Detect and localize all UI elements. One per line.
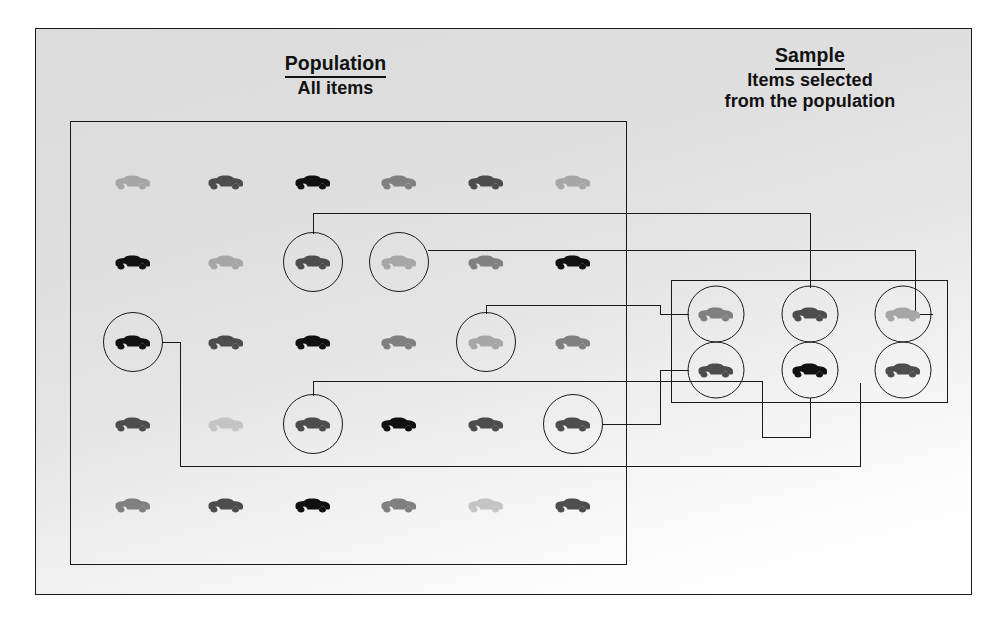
car-icon bbox=[294, 497, 332, 513]
sample-subtitle-line1: Items selected bbox=[690, 70, 930, 91]
car-icon bbox=[467, 254, 505, 270]
connector-segment bbox=[660, 370, 661, 425]
car-icon bbox=[554, 416, 592, 432]
car-icon bbox=[467, 174, 505, 190]
car-icon bbox=[884, 362, 922, 378]
car-icon bbox=[114, 497, 152, 513]
car-icon bbox=[380, 416, 418, 432]
car-icon bbox=[467, 416, 505, 432]
car-icon bbox=[380, 334, 418, 350]
car-icon bbox=[114, 254, 152, 270]
population-subtitle: All items bbox=[228, 78, 443, 99]
car-icon bbox=[697, 306, 735, 322]
car-icon bbox=[554, 254, 592, 270]
car-icon bbox=[294, 174, 332, 190]
sample-title: Sample bbox=[775, 44, 845, 70]
car-icon bbox=[554, 174, 592, 190]
sample-label: Sample Items selected from the populatio… bbox=[690, 44, 930, 112]
car-icon bbox=[114, 174, 152, 190]
car-icon bbox=[554, 497, 592, 513]
connector-segment bbox=[486, 305, 661, 306]
car-icon bbox=[294, 254, 332, 270]
connector-segment bbox=[602, 424, 661, 425]
connector-segment bbox=[660, 370, 689, 371]
connector-segment bbox=[180, 466, 861, 467]
connector-segment bbox=[860, 383, 861, 467]
connector-segment bbox=[428, 250, 916, 251]
connector-segment bbox=[810, 398, 811, 438]
car-icon bbox=[207, 254, 245, 270]
connector-segment bbox=[762, 381, 763, 438]
car-icon bbox=[554, 334, 592, 350]
diagram-canvas: Population All items Sample Items select… bbox=[0, 0, 1007, 622]
connector-segment bbox=[660, 314, 689, 315]
connector-segment bbox=[313, 213, 811, 214]
car-icon bbox=[114, 334, 152, 350]
connector-segment bbox=[162, 342, 181, 343]
sample-subtitle-line2: from the population bbox=[690, 91, 930, 112]
car-icon bbox=[207, 174, 245, 190]
population-title: Population bbox=[285, 52, 387, 78]
car-icon bbox=[380, 174, 418, 190]
connector-segment bbox=[180, 342, 181, 467]
car-icon bbox=[207, 497, 245, 513]
car-icon bbox=[294, 334, 332, 350]
car-icon bbox=[380, 497, 418, 513]
car-icon bbox=[791, 362, 829, 378]
population-label: Population All items bbox=[228, 52, 443, 99]
connector-segment bbox=[762, 437, 811, 438]
car-icon bbox=[697, 362, 735, 378]
car-icon bbox=[791, 306, 829, 322]
car-icon bbox=[294, 416, 332, 432]
car-icon bbox=[207, 334, 245, 350]
car-icon bbox=[884, 306, 922, 322]
car-icon bbox=[207, 416, 245, 432]
car-icon bbox=[380, 254, 418, 270]
car-icon bbox=[467, 334, 505, 350]
car-icon bbox=[467, 497, 505, 513]
car-icon bbox=[114, 416, 152, 432]
